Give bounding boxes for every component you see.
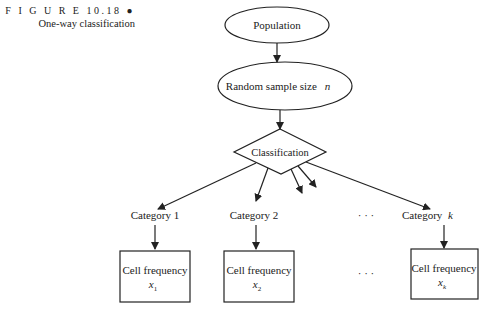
cell-box-k: Cell frequency xk <box>411 249 478 299</box>
svg-text:x2: x2 <box>252 278 262 293</box>
ellipsis-cells: · · · <box>358 267 375 279</box>
arrow-extra-1 <box>291 169 302 193</box>
category-2-label: Category 2 <box>230 209 279 221</box>
category-1-label: Category 1 <box>131 209 180 221</box>
sample-var: n <box>325 80 331 92</box>
category-k-label: Category k <box>402 209 454 221</box>
arrow-to-category-2 <box>256 168 268 201</box>
population-node: Population <box>225 7 329 43</box>
svg-text:xk: xk <box>437 276 447 291</box>
cell-box-2: Cell frequency x2 <box>224 251 294 302</box>
svg-text:Random sample size n: Random sample size n <box>226 80 331 92</box>
sample-node: Random sample size n <box>218 62 352 110</box>
svg-text:Cell frequency: Cell frequency <box>411 262 477 274</box>
flow-diagram: Population Random sample size n Classifi… <box>0 0 495 320</box>
arrow-to-category-k <box>306 162 430 209</box>
sample-label: Random sample size <box>226 80 317 92</box>
arrow-extra-2 <box>298 166 316 187</box>
svg-text:Cell frequency: Cell frequency <box>122 264 188 276</box>
classification-label: Classification <box>251 147 309 158</box>
arrow-to-category-1 <box>158 163 256 209</box>
svg-text:x1: x1 <box>148 278 158 293</box>
ellipsis-categories: · · · <box>358 209 375 221</box>
svg-text:Cell frequency: Cell frequency <box>226 264 292 276</box>
population-label: Population <box>253 19 301 31</box>
cell-box-1: Cell frequency x1 <box>120 251 190 302</box>
